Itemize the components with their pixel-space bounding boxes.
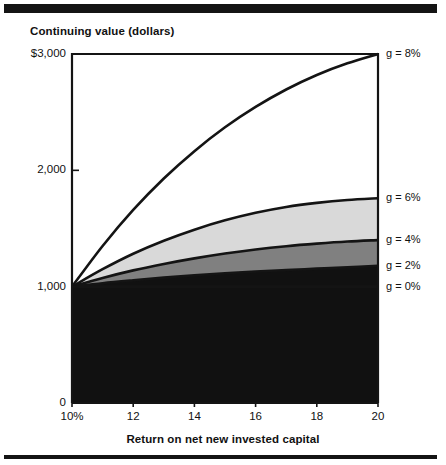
x-tick-label: 14 [169, 411, 219, 423]
x-tick-label: 18 [292, 411, 342, 423]
chart-canvas [0, 0, 446, 465]
area-band-0pct [72, 287, 378, 403]
x-tick-label: 16 [231, 411, 281, 423]
x-tick-label: 10% [47, 411, 97, 423]
series-label: g = 2% [386, 260, 421, 271]
x-tick-label: 20 [353, 411, 403, 423]
series-label: g = 0% [386, 281, 421, 292]
y-tick-label: 0 [8, 397, 66, 409]
area-chart-plot [0, 0, 446, 465]
series-label: g = 4% [386, 234, 421, 245]
bottom-rule [4, 455, 437, 459]
y-tick-label: $3,000 [8, 48, 66, 60]
x-axis-title: Return on net new invested capital [0, 433, 446, 445]
y-tick-label: 1,000 [8, 281, 66, 293]
y-tick-label: 2,000 [8, 164, 66, 176]
series-label: g = 8% [386, 48, 421, 59]
x-tick-label: 12 [108, 411, 158, 423]
series-label: g = 6% [386, 192, 421, 203]
